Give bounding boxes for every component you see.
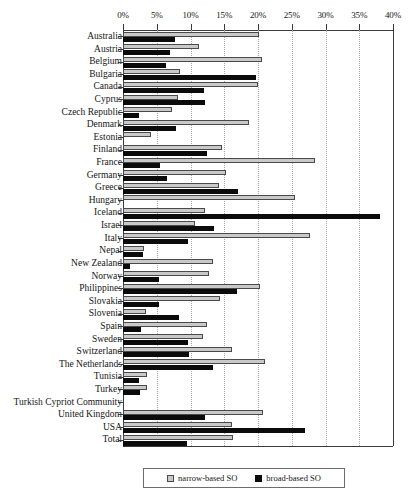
bar-narrow-based-so [123, 372, 147, 377]
category-label: Nepal [0, 244, 122, 257]
bar-broad-based-so [123, 163, 160, 168]
category-label: Total [0, 433, 122, 446]
x-tick-label: 30% [309, 10, 343, 20]
bar-broad-based-so [123, 226, 214, 231]
chart-row: Spain [0, 320, 420, 333]
x-tick-label: 25% [275, 10, 309, 20]
chart-row: Slovakia [0, 295, 420, 308]
chart-row: New Zealand [0, 257, 420, 270]
legend-item-broad-based-so: broad-based SO [255, 473, 321, 483]
bar-narrow-based-so [123, 57, 262, 62]
category-label: Australia [0, 30, 122, 43]
category-label: USA [0, 421, 122, 434]
legend-swatch-narrow-icon [167, 475, 174, 482]
bar-broad-based-so [123, 75, 256, 80]
x-tick-label: 0% [106, 10, 140, 20]
bar-narrow-based-so [123, 385, 147, 390]
bar-broad-based-so [123, 415, 205, 420]
chart-row: Norway [0, 270, 420, 283]
x-tick-label: 10% [174, 10, 208, 20]
bar-broad-based-so [123, 302, 159, 307]
bar-narrow-based-so [123, 120, 249, 125]
bar-narrow-based-so [123, 296, 220, 301]
category-label: Spain [0, 320, 122, 333]
bar-narrow-based-so [123, 271, 209, 276]
category-label: Germany [0, 169, 122, 182]
category-label: United Kingdom [0, 408, 122, 421]
chart-row: Total [0, 433, 420, 446]
bar-broad-based-so [123, 176, 167, 181]
chart-row: Iceland [0, 206, 420, 219]
bar-narrow-based-so [123, 107, 172, 112]
category-label: France [0, 156, 122, 169]
bar-broad-based-so [123, 277, 159, 282]
bar-broad-based-so [123, 63, 166, 68]
bar-broad-based-so [123, 151, 207, 156]
bar-broad-based-so [123, 428, 305, 433]
bar-broad-based-so [123, 37, 175, 42]
bar-broad-based-so [123, 327, 141, 332]
chart-row: Estonia [0, 131, 420, 144]
category-label: Estonia [0, 131, 122, 144]
chart-row: Germany [0, 169, 420, 182]
category-label: Norway [0, 270, 122, 283]
bar-narrow-based-so [123, 95, 178, 100]
bar-narrow-based-so [123, 183, 219, 188]
x-tick-label: 5% [140, 10, 174, 20]
bar-narrow-based-so [123, 69, 180, 74]
x-tick-label: 15% [207, 10, 241, 20]
bar-narrow-based-so [123, 82, 258, 87]
bar-broad-based-so [123, 441, 187, 446]
bar-broad-based-so [123, 264, 130, 269]
category-label: Sweden [0, 333, 122, 346]
category-label: Turkey [0, 383, 122, 396]
chart-row: Bulgaria [0, 68, 420, 81]
bar-broad-based-so [123, 315, 179, 320]
category-label: Finland [0, 143, 122, 156]
bar-broad-based-so [123, 390, 140, 395]
bar-narrow-based-so [123, 334, 203, 339]
bar-narrow-based-so [123, 259, 213, 264]
chart-row: Italy [0, 232, 420, 245]
category-label: Slovenia [0, 307, 122, 320]
chart-row: Turkey [0, 383, 420, 396]
chart-row: United Kingdom [0, 408, 420, 421]
bar-narrow-based-so [123, 221, 195, 226]
chart-row: Tunisia [0, 370, 420, 383]
category-label: Hungary [0, 194, 122, 207]
category-label: The Netherlands [0, 358, 122, 371]
category-label: Turkish Cypriot Community [0, 396, 122, 409]
grouped-bar-chart: 0%5%10%15%20%25%30%35%40% AustraliaAustr… [0, 0, 420, 494]
category-label: Slovakia [0, 295, 122, 308]
bar-broad-based-so [123, 378, 139, 383]
category-label: Cyprus [0, 93, 122, 106]
chart-row: Switzerland [0, 345, 420, 358]
bar-narrow-based-so [123, 435, 233, 440]
chart-row: USA [0, 421, 420, 434]
category-label: Denmark [0, 118, 122, 131]
bar-broad-based-so [123, 252, 143, 257]
legend-swatch-broad-icon [255, 475, 262, 482]
bar-narrow-based-so [123, 246, 144, 251]
chart-row: Slovenia [0, 307, 420, 320]
bar-broad-based-so [123, 113, 139, 118]
bar-broad-based-so [123, 214, 380, 219]
chart-row: The Netherlands [0, 358, 420, 371]
bar-narrow-based-so [123, 132, 151, 137]
chart-row: Israel [0, 219, 420, 232]
chart-row: France [0, 156, 420, 169]
category-label: Canada [0, 80, 122, 93]
x-tick-label: 35% [342, 10, 376, 20]
bar-narrow-based-so [123, 422, 232, 427]
bar-narrow-based-so [123, 284, 260, 289]
bar-narrow-based-so [123, 195, 295, 200]
bar-broad-based-so [123, 365, 213, 370]
legend-label-broad: broad-based SO [266, 473, 321, 483]
bar-narrow-based-so [123, 410, 263, 415]
bar-narrow-based-so [123, 32, 259, 37]
bar-narrow-based-so [123, 233, 310, 238]
category-label: Belgium [0, 55, 122, 68]
category-label: Greece [0, 181, 122, 194]
chart-row: Canada [0, 80, 420, 93]
bar-narrow-based-so [123, 145, 222, 150]
